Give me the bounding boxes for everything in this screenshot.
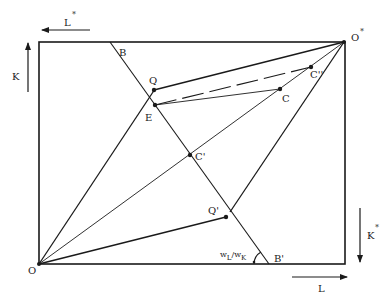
label-Q-prime: Q' [208,205,219,216]
bottom-arrow-label: L [318,283,325,294]
line-O-to-C [39,42,344,264]
line-O-to-Q-prime [39,217,226,264]
point-E [153,103,157,107]
label-C-double-prime: C'' [310,69,323,80]
point-C-prime [188,153,192,157]
label-B: B [119,47,126,58]
point-Q [152,88,156,92]
top-arrow-label: L [64,17,71,28]
label-E: E [145,112,152,123]
line-O-star-to-Q-prime [230,42,344,212]
line-O-star-to-Q [154,42,344,90]
angle-label-wL-over-wK: wL/wK [220,250,247,262]
point-C [278,87,282,91]
origin-O-star-superscript: * [360,27,364,36]
edgeworth-box-diagram: L * K K * L O O * B Q E C C'' C' Q' B' w… [0,0,391,306]
label-B-prime: B' [274,253,284,264]
top-arrow-superscript: * [72,10,76,19]
label-C-prime: C' [195,151,205,162]
left-arrow-label: K [12,71,20,82]
label-Q: Q [149,75,157,86]
right-arrow-superscript: * [375,223,379,232]
point-Q-prime [224,215,228,219]
point-O-star [342,40,346,44]
label-C: C [282,93,290,104]
origin-O-star-label: O [351,32,359,43]
angle-arc-end-dot [253,261,256,264]
right-arrow-label: K [367,230,375,241]
point-O [37,262,41,266]
line-O-to-E [39,89,155,264]
origin-O-label: O [28,265,36,276]
